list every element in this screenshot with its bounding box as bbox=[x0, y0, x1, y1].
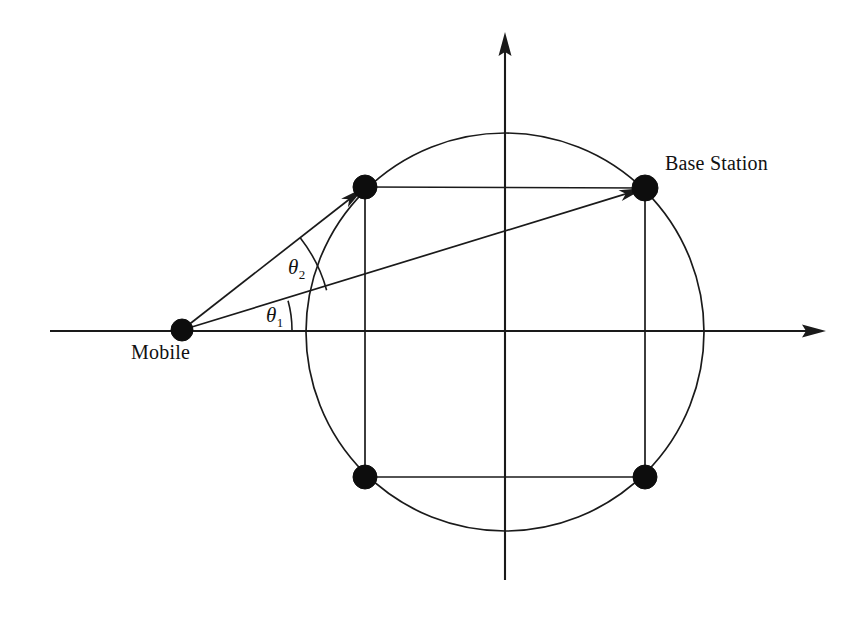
base-station-label: Base Station bbox=[665, 152, 768, 175]
node-scatterer-bottom-left[interactable] bbox=[353, 465, 377, 489]
node-base-station[interactable] bbox=[632, 175, 658, 201]
theta1-symbol: θ bbox=[266, 303, 276, 327]
theta2-label: θ2 bbox=[288, 255, 305, 283]
mobile-label: Mobile bbox=[131, 341, 190, 364]
theta2-symbol: θ bbox=[288, 255, 298, 279]
node-scatterer-top-left[interactable] bbox=[353, 175, 377, 199]
theta1-arc bbox=[288, 301, 292, 330]
theta1-subscript: 1 bbox=[277, 315, 284, 330]
rect-edge-top bbox=[365, 187, 645, 188]
node-mobile[interactable] bbox=[171, 319, 193, 341]
node-scatterer-bottom-right[interactable] bbox=[633, 465, 657, 489]
diagram-canvas: Mobile Base Station θ1 θ2 bbox=[0, 0, 856, 620]
ray-to-base-station-line bbox=[182, 192, 631, 330]
theta1-label: θ1 bbox=[266, 303, 283, 331]
axes-group bbox=[50, 32, 826, 580]
rays-group bbox=[182, 187, 645, 330]
theta2-subscript: 2 bbox=[299, 267, 306, 282]
diagram-svg bbox=[0, 0, 856, 620]
